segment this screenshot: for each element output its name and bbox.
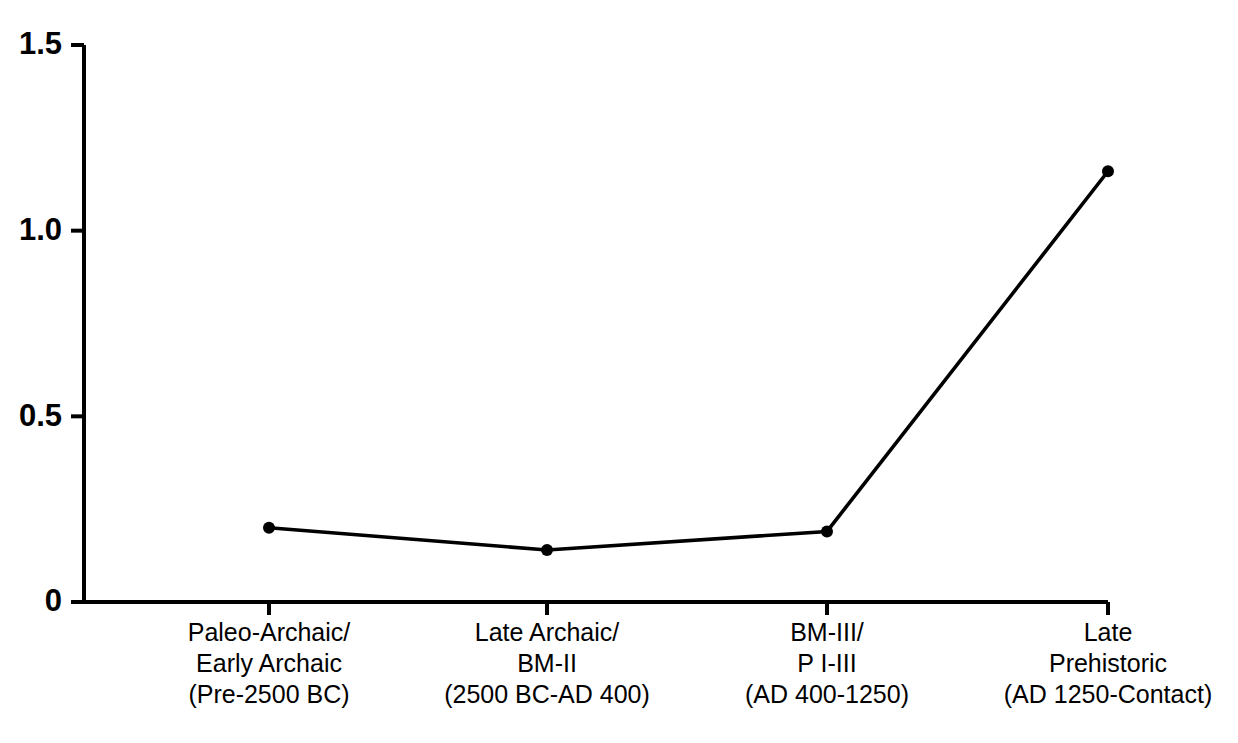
x-axis-category-label-line: (AD 1250-Contact): [1004, 680, 1212, 708]
x-axis-category-label-line: P I-III: [797, 649, 856, 677]
line-chart: 00.51.01.5 Paleo-Archaic/Early Archaic(P…: [0, 0, 1238, 743]
x-axis-category-label: BM-III/P I-III(AD 400-1250): [745, 618, 909, 708]
x-axis-category-label-line: Paleo-Archaic/: [188, 618, 351, 646]
x-axis-category-label: LatePrehistoric(AD 1250-Contact): [1004, 618, 1212, 708]
data-point-marker: [1102, 165, 1114, 177]
x-axis-category-label-line: BM-III/: [790, 618, 864, 646]
x-axis-category-label: Paleo-Archaic/Early Archaic(Pre-2500 BC): [188, 618, 351, 708]
x-axis-category-label-line: BM-II: [517, 649, 577, 677]
data-point-markers: [263, 165, 1114, 556]
x-axis-category-label-line: (AD 400-1250): [745, 680, 909, 708]
y-axis-tick-label: 1.0: [19, 212, 62, 247]
x-axis-category-label-line: (Pre-2500 BC): [188, 680, 349, 708]
y-axis-tick-labels: 00.51.01.5: [19, 26, 62, 618]
y-axis-group: 00.51.01.5: [19, 26, 84, 618]
data-line-series-1: [269, 171, 1108, 550]
x-axis-category-label-line: Late Archaic/: [475, 618, 620, 646]
y-axis-tick-label: 0: [45, 583, 62, 618]
data-point-marker: [541, 544, 553, 556]
data-point-marker: [263, 522, 275, 534]
data-point-marker: [821, 525, 833, 537]
x-axis-category-label-line: Late: [1084, 618, 1133, 646]
series-group: [263, 165, 1114, 556]
x-axis-category-label: Late Archaic/BM-II(2500 BC-AD 400): [444, 618, 650, 708]
y-axis-tick-label: 1.5: [19, 26, 62, 61]
x-axis-category-label-line: Early Archaic: [196, 649, 342, 677]
x-axis-category-label-line: (2500 BC-AD 400): [444, 680, 650, 708]
chart-canvas: 00.51.01.5 Paleo-Archaic/Early Archaic(P…: [0, 0, 1238, 743]
x-axis-category-label-line: Prehistoric: [1049, 649, 1167, 677]
x-axis-category-labels: Paleo-Archaic/Early Archaic(Pre-2500 BC)…: [188, 618, 1213, 708]
y-axis-tick-label: 0.5: [19, 398, 62, 433]
x-axis-group: Paleo-Archaic/Early Archaic(Pre-2500 BC)…: [84, 602, 1212, 708]
